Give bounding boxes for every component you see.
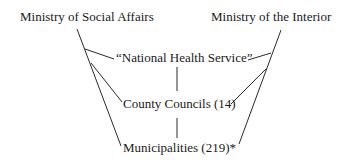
node-ministry-social-affairs: Ministry of Social Affairs (20, 9, 154, 24)
edge-social-to-municipalities (77, 29, 121, 146)
node-municipalities: Municipalities (219)* (123, 140, 236, 155)
edge-social-to-county (91, 63, 122, 102)
edge-social-to-nhs (85, 49, 114, 59)
node-national-health-service: “National Health Service” (116, 50, 252, 65)
node-county-councils: County Councils (14) (123, 96, 236, 111)
node-ministry-interior: Ministry of the Interior (211, 9, 331, 24)
edge-interior-to-municipalities (239, 30, 281, 144)
edge-interior-to-county (231, 69, 266, 104)
